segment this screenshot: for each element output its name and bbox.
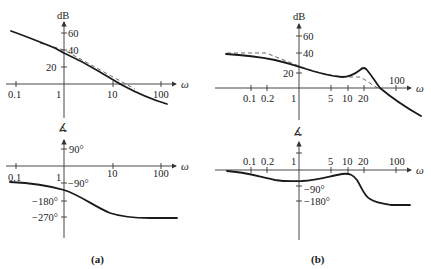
panel-a-magnitude-plot: dB ω 60 40 20 0.1 1 10 100 xyxy=(6,10,189,118)
x-tick-0.1: 0.1 xyxy=(8,89,21,100)
x-axis-label: ω xyxy=(416,82,424,94)
y-tick-90: 90° xyxy=(69,144,84,155)
y-tick-minus-90: −90° xyxy=(304,184,325,195)
magnitude-curve xyxy=(11,31,167,104)
x-tick-100: 100 xyxy=(153,89,169,100)
y-tick-40: 40 xyxy=(303,48,314,59)
y-tick-minus-180: −180° xyxy=(304,196,330,207)
x-tick-0.2: 0.2 xyxy=(261,156,274,167)
x-tick-100: 100 xyxy=(389,156,405,167)
phase-symbol-label: ∡ xyxy=(58,122,68,133)
panel-b-magnitude-plot: dB ω 60 40 20 0.1 0.2 1 5 10 20 100 xyxy=(215,11,424,120)
x-tick-0.2: 0.2 xyxy=(261,93,274,104)
phase-symbol-label: ∡ xyxy=(293,126,303,137)
panel-b-phase-plot: ∡ ω −90° −180° 0.1 0.2 1 5 10 20 100 xyxy=(215,126,424,240)
y-tick-60: 60 xyxy=(68,28,79,39)
bode-figure: dB ω 60 40 20 0.1 1 10 100 ∡ ω 90° −90° … xyxy=(0,0,431,269)
x-tick-1: 1 xyxy=(56,89,61,100)
x-tick-10: 10 xyxy=(107,89,118,100)
x-tick-10: 10 xyxy=(107,168,118,179)
panel-b-caption: (b) xyxy=(311,253,325,266)
y-tick-60: 60 xyxy=(303,31,314,42)
x-tick-0.1: 0.1 xyxy=(243,156,256,167)
x-tick-10: 10 xyxy=(342,156,353,167)
x-axis-label: ω xyxy=(181,160,189,172)
x-axis-label: ω xyxy=(181,78,189,90)
x-tick-1: 1 xyxy=(56,172,61,183)
y-tick-minus-270: −270° xyxy=(32,212,58,223)
x-tick-100: 100 xyxy=(389,75,405,86)
x-tick-100: 100 xyxy=(153,168,169,179)
x-tick-1: 1 xyxy=(291,93,296,104)
y-tick-40: 40 xyxy=(68,45,79,56)
x-tick-20: 20 xyxy=(358,93,369,104)
y-axis-label: dB xyxy=(293,11,305,22)
y-tick-minus-90: −90° xyxy=(68,178,89,189)
y-tick-20: 20 xyxy=(46,62,57,73)
x-tick-10: 10 xyxy=(342,93,353,104)
panel-a-caption: (a) xyxy=(91,253,104,266)
panel-a-phase-plot: ∡ ω 90° −90° −180° −270° 0.1 1 10 100 xyxy=(6,122,189,238)
x-tick-0.1: 0.1 xyxy=(243,93,256,104)
x-tick-5: 5 xyxy=(328,93,333,104)
x-axis-label: ω xyxy=(416,164,424,176)
x-tick-1: 1 xyxy=(291,156,296,167)
y-tick-minus-180: −180° xyxy=(32,196,58,207)
x-tick-20: 20 xyxy=(358,156,369,167)
x-tick-5: 5 xyxy=(328,156,333,167)
y-tick-20: 20 xyxy=(283,68,294,79)
y-axis-label: dB xyxy=(57,10,69,21)
